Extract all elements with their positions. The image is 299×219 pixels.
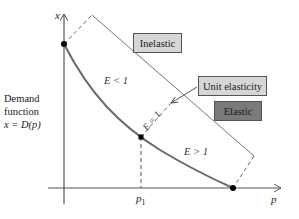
unit-region-label: E = 1 [140,109,162,133]
x-intercept-point [230,185,236,191]
p1-tick-label: p1 [135,192,146,207]
unit-elasticity-pointer [171,87,197,103]
unit-elasticity-point [139,135,144,140]
y-axis-label: x [54,9,60,21]
unit-elasticity-box: Unit elasticity [198,76,267,96]
unit-elasticity-box-label: Unit elasticity [203,81,262,92]
demand-function-line3: x = D(p) [4,118,41,131]
elastic-box-label: Elastic [224,106,253,117]
inelastic-box: Inelastic [133,33,182,53]
elastic-box: Elastic [214,101,262,121]
demand-function-label: Demand function x = D(p) [4,92,41,131]
x-axis-label: p [270,193,277,205]
inelastic-box-label: Inelastic [140,38,176,49]
inelastic-region-label: E < 1 [103,75,128,86]
y-intercept-point [61,41,67,47]
elastic-region-label: E > 1 [183,146,208,157]
elasticity-diagram: x p p1 E < 1 E > 1 E = 1 [0,0,299,219]
demand-function-line2: function [4,105,41,118]
demand-function-line1: Demand [4,92,41,105]
